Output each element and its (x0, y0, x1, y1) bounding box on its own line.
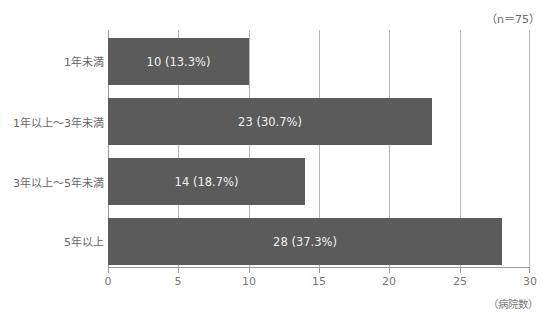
bar-1: 10 (13.3%) (108, 38, 249, 85)
x-axis-unit-label: （病院数） (488, 296, 538, 311)
gridline (529, 30, 530, 268)
x-tick-label: 15 (312, 275, 326, 288)
x-tick (529, 268, 530, 273)
bar-4: 28 (37.3%) (108, 218, 502, 265)
x-tick-label: 30 (523, 275, 537, 288)
x-tick-label: 0 (105, 275, 112, 288)
x-tick (178, 268, 179, 273)
plot-area: 10 (13.3%) 23 (30.7%) 14 (18.7%) 28 (37.… (108, 30, 530, 268)
bar-value-label: 28 (37.3%) (273, 235, 337, 249)
x-tick-label: 5 (175, 275, 182, 288)
x-tick (249, 268, 250, 273)
category-label: 5年以上 (64, 233, 104, 249)
x-tick-label: 20 (382, 275, 396, 288)
bar-value-label: 10 (13.3%) (147, 55, 211, 69)
x-tick-label: 25 (453, 275, 467, 288)
x-tick (319, 268, 320, 273)
x-tick (389, 268, 390, 273)
n-label: （n＝75） (486, 10, 540, 26)
bar-2: 23 (30.7%) (108, 98, 432, 145)
category-label: 3年以上～5年未満 (13, 174, 104, 190)
category-label: 1年以上～3年未満 (13, 114, 104, 130)
x-tick (108, 268, 109, 273)
bar-3: 14 (18.7%) (108, 158, 305, 205)
bar-value-label: 23 (30.7%) (238, 115, 302, 129)
category-label: 1年未満 (64, 53, 104, 69)
bar-value-label: 14 (18.7%) (175, 175, 239, 189)
x-tick (460, 268, 461, 273)
x-tick-label: 10 (242, 275, 256, 288)
